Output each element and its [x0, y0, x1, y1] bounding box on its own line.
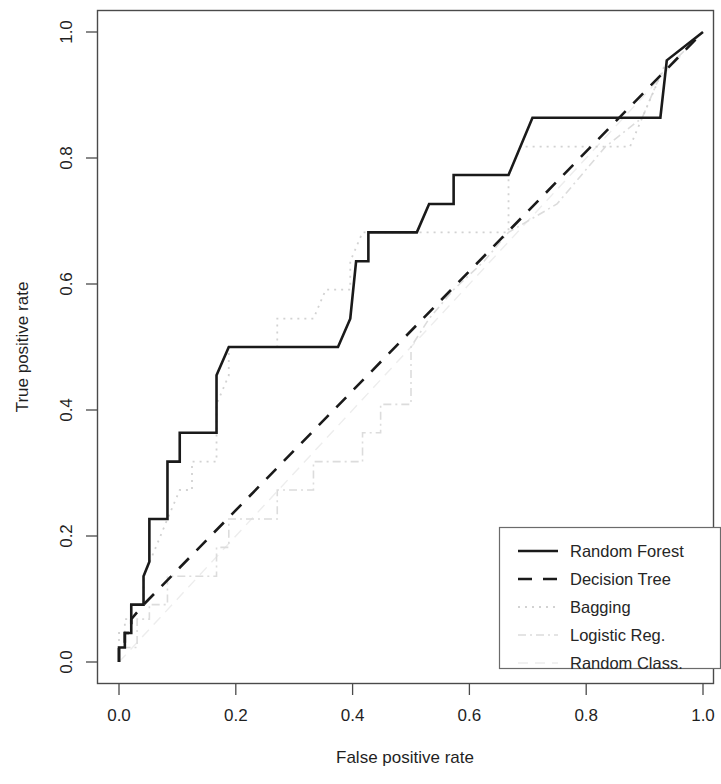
y-axis-title: True positive rate	[13, 282, 32, 413]
x-tick-label: 1.0	[691, 706, 715, 725]
x-tick-label: 0.6	[458, 706, 482, 725]
y-tick-label: 0.0	[57, 650, 76, 674]
x-tick-label: 0.2	[224, 706, 248, 725]
y-axis-tick-labels: 0.00.20.40.60.81.0	[57, 20, 76, 674]
y-tick-label: 0.8	[57, 146, 76, 170]
legend-label-logistic-reg: Logistic Reg.	[570, 626, 665, 644]
y-tick-label: 0.2	[57, 524, 76, 548]
legend-label-bagging: Bagging	[570, 598, 631, 616]
x-tick-label: 0.0	[107, 706, 131, 725]
x-tick-label: 0.8	[574, 706, 598, 725]
legend-label-decision-tree: Decision Tree	[570, 570, 671, 588]
legend-label-random-class: Random Class.	[570, 654, 683, 672]
y-tick-label: 1.0	[57, 20, 76, 44]
x-axis-tick-labels: 0.00.20.40.60.81.0	[107, 706, 715, 725]
y-tick-label: 0.4	[57, 398, 76, 422]
legend-label-random-forest: Random Forest	[570, 542, 684, 560]
x-axis-ticks	[119, 684, 703, 695]
y-axis-ticks	[86, 32, 97, 662]
roc-plot-svg: 0.00.20.40.60.81.0 0.00.20.40.60.81.0 Ra…	[0, 0, 721, 784]
roc-curve-figure: 0.00.20.40.60.81.0 0.00.20.40.60.81.0 Ra…	[0, 0, 721, 784]
x-axis-title: False positive rate	[336, 748, 474, 767]
chart-legend: Random ForestDecision TreeBaggingLogisti…	[500, 528, 721, 673]
y-tick-label: 0.6	[57, 272, 76, 296]
x-tick-label: 0.4	[341, 706, 365, 725]
